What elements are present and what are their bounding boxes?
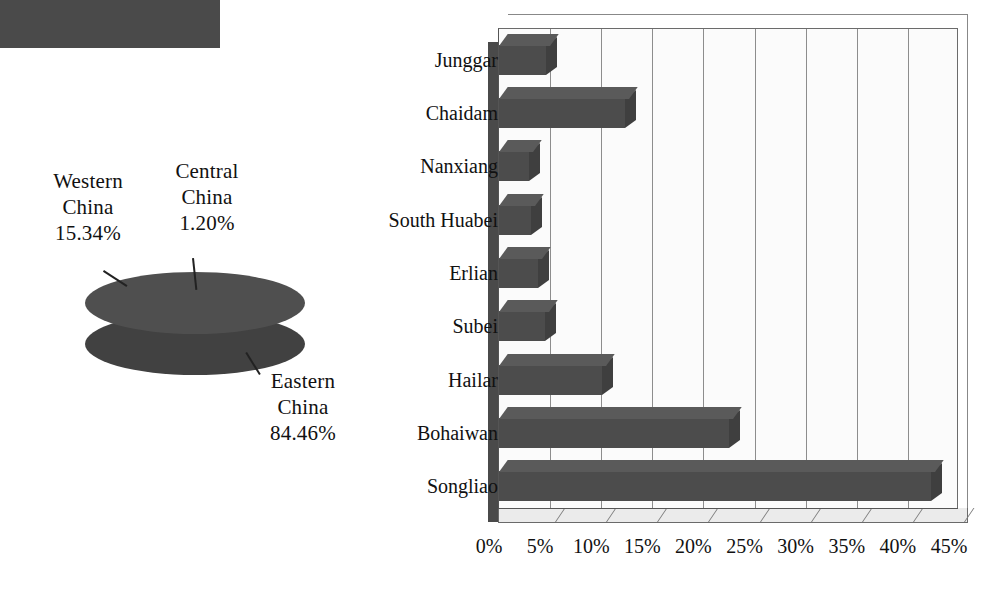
gridline-30 [806,29,807,508]
floor-tick [555,508,565,522]
floor-tick [657,508,667,522]
bar-songliao [499,471,931,501]
bar-junggar [499,45,546,75]
bar-south-huabei [499,205,531,235]
category-label-south-huabei: South Huabei [298,209,498,231]
category-label-hailar: Hailar [298,369,498,391]
tick-label-45: 45% [914,534,984,558]
pie-value-central: 1.20% [148,210,266,236]
value-axis-line [498,508,958,509]
floor-tick [862,508,872,522]
category-label-junggar: Junggar [298,49,498,71]
floor-tick [760,508,770,522]
floor-tick [913,508,923,522]
bar-top-face [499,34,559,46]
pie-value-western: 15.34% [28,220,148,246]
pie-label-western-line1: Western [28,168,148,194]
floor-tick [708,508,718,522]
bar-top-face [499,87,637,99]
gridline-25 [755,29,756,508]
bar-chart-panel: JunggarChaidamNanxiangSouth HuabeiErlian… [375,0,1007,598]
bar-bohaiwan [499,418,729,448]
pie-disc-side [0,0,220,48]
bar-top-face [499,460,944,472]
bar-top-face [499,247,551,259]
pie-label-central-line2: China [148,184,266,210]
plot-area [498,28,958,508]
floor-tick [606,508,616,522]
pie-label-western-line2: China [28,194,148,220]
bar-subei [499,311,545,341]
pie-label-western-china: Western China 15.34% [28,168,148,246]
category-axis-labels: JunggarChaidamNanxiangSouth HuabeiErlian… [275,0,498,598]
bar-erlian [499,258,538,288]
bar-chaidam [499,98,625,128]
gridline-40 [908,29,909,508]
floor-tick [964,508,974,522]
bar-hailar [499,365,602,395]
pie-label-central-china: Central China 1.20% [148,158,266,236]
bar-nanxiang [499,151,529,181]
category-label-nanxiang: Nanxiang [298,155,498,177]
figure-root: Western China 15.34% Central China 1.20%… [0,0,1007,598]
floor-tick [811,508,821,522]
bar-top-face [499,300,558,312]
plot-3d-floor [498,508,968,523]
category-label-erlian: Erlian [298,262,498,284]
category-label-bohaiwan: Bohaiwan [298,422,498,444]
gridline-35 [857,29,858,508]
category-label-subei: Subei [298,315,498,337]
bar-top-face [499,354,615,366]
pie-label-central-line1: Central [148,158,266,184]
bar-top-face [499,407,742,419]
category-label-chaidam: Chaidam [298,102,498,124]
category-label-songliao: Songliao [298,475,498,497]
